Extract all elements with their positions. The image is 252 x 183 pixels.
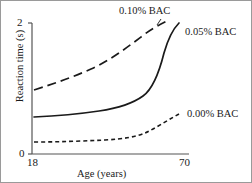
series-line-bac-000 [34,114,179,142]
x-axis-title: Age (years) [77,169,126,180]
y-tick-label-bottom: 0 [19,148,25,159]
series-label-bac-005: 0.05% BAC [185,27,236,38]
chart-figure: 2 0 18 70 Age (years) Reaction time (s) … [0,0,252,183]
x-tick-label-left: 18 [27,157,38,168]
series-line-bac-010 [34,21,167,90]
y-axis-title: Reaction time (s) [14,30,25,102]
series-label-bac-000: 0.00% BAC [187,109,238,120]
series-label-bac-010: 0.10% BAC [119,6,170,17]
series-line-bac-005 [34,23,179,117]
y-axis-title-wrapper: Reaction time (s) [9,11,27,121]
x-tick-label-right: 70 [179,157,190,168]
